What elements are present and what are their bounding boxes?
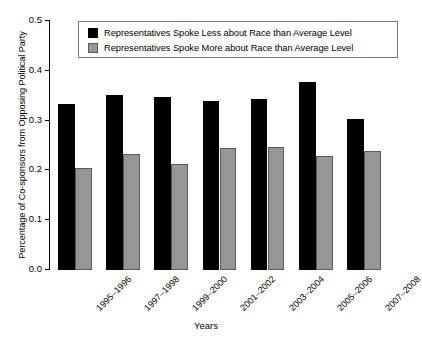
grey-square-icon [88, 43, 98, 53]
bar-spoke-more-2005-2006 [316, 156, 333, 270]
x-axis-tick-label: 2005–2006 [335, 274, 374, 313]
bar-spoke-more-1995-1996 [75, 168, 92, 270]
x-axis-tick-label: 1999–2000 [190, 274, 229, 313]
bar-spoke-less-1995-1996 [58, 104, 75, 270]
y-axis-tick-label: 0.1 [16, 214, 42, 224]
x-axis-title: Years [0, 320, 412, 331]
x-axis-tick-label: 2007–2008 [383, 274, 422, 313]
y-axis-tick [45, 169, 49, 170]
x-axis-tick-label: 2003–2004 [287, 274, 326, 313]
legend-entry-spoke-more: Representatives Spoke More about Race th… [88, 42, 353, 54]
legend-label-spoke-more: Representatives Spoke More about Race th… [104, 43, 353, 53]
y-axis-tick-label: 0.2 [16, 164, 42, 174]
bar-spoke-more-2001-2002 [220, 148, 237, 270]
x-axis-tick-label: 2001–2002 [239, 274, 278, 313]
legend: Representatives Spoke Less about Race th… [78, 21, 398, 58]
y-axis-title: Percentage of Co-sponsors from Opposing … [17, 5, 27, 285]
bar-spoke-more-2003-2004 [268, 147, 285, 271]
y-axis-tick-label: 0.3 [16, 115, 42, 125]
legend-label-spoke-less: Representatives Spoke Less about Race th… [104, 28, 352, 38]
bar-spoke-less-2001-2002 [203, 101, 220, 270]
black-square-icon [88, 28, 98, 38]
x-axis-tick-label: 1997–1998 [142, 274, 181, 313]
y-axis-tick [45, 70, 49, 71]
y-axis-tick [45, 269, 49, 270]
y-axis-tick [45, 219, 49, 220]
x-axis-tick-label: 1995–1996 [94, 274, 133, 313]
bar-spoke-less-2007-2008 [347, 119, 364, 270]
legend-entry-spoke-less: Representatives Spoke Less about Race th… [88, 27, 352, 39]
bar-spoke-less-2005-2006 [299, 82, 316, 270]
y-axis-tick [45, 120, 49, 121]
bar-spoke-more-2007-2008 [364, 151, 381, 270]
bar-spoke-less-1997-1998 [106, 95, 123, 270]
y-axis-tick-label: 0.0 [16, 264, 42, 274]
y-axis-tick [45, 20, 49, 21]
bar-spoke-less-1999-2000 [154, 97, 171, 270]
y-axis-tick-label: 0.4 [16, 65, 42, 75]
bar-spoke-less-2003-2004 [251, 99, 268, 270]
y-axis-tick-label: 0.5 [16, 15, 42, 25]
bar-spoke-more-1999-2000 [171, 164, 188, 270]
bar-spoke-more-1997-1998 [123, 154, 140, 270]
